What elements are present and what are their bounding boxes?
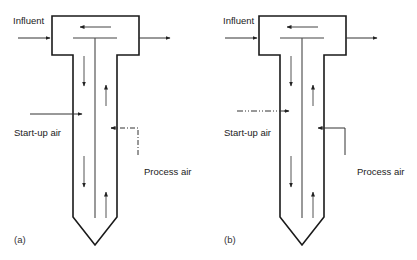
process-air-label-b: Process air — [357, 167, 405, 177]
process-air-label-a: Process air — [144, 167, 192, 177]
startup-air-label-b: Start-up air — [224, 128, 271, 138]
panel-label-a: (a) — [14, 235, 26, 245]
startup-air-label-a: Start-up air — [14, 128, 61, 138]
influent-label-b: Influent — [223, 16, 254, 26]
deep-shaft-diagram — [0, 0, 417, 260]
influent-label-a: Influent — [13, 16, 44, 26]
process-air-arrow — [318, 128, 345, 155]
panel-label-b: (b) — [224, 235, 236, 245]
process-air-line — [111, 128, 138, 155]
